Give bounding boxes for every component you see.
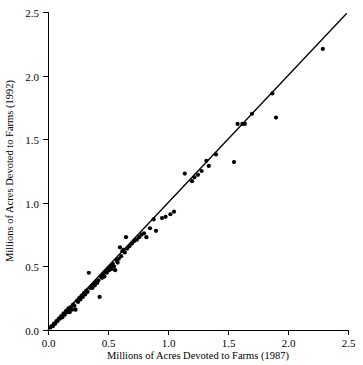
y-tick-label: 0.0	[25, 325, 39, 337]
scatter-point	[250, 112, 254, 116]
scatter-point	[148, 226, 152, 230]
y-axis-ticks	[43, 13, 48, 331]
scatter-point	[116, 260, 120, 264]
scatter-point	[74, 308, 78, 312]
y-tick-label: 0.5	[25, 261, 39, 273]
scatter-point	[200, 169, 204, 173]
scatter-point	[112, 264, 116, 268]
scatter-point	[118, 245, 122, 249]
x-tick-label: 2.0	[282, 337, 296, 349]
scatter-point	[321, 47, 325, 51]
x-axis-title: Millions of Acres Devoted to Farms (1987…	[107, 350, 289, 362]
scatter-point	[196, 173, 200, 177]
scatter-point	[119, 254, 123, 258]
scatter-plot-figure: 0.00.51.01.52.02.5 0.00.51.01.52.02.5 Mi…	[0, 0, 363, 365]
y-tick-label: 2.5	[25, 7, 39, 19]
scatter-point	[87, 271, 91, 275]
scatter-point	[164, 215, 168, 219]
scatter-point	[183, 171, 187, 175]
scatter-point	[70, 308, 74, 312]
scatter-point	[274, 115, 278, 119]
scatter-point	[124, 235, 128, 239]
scatter-points-group	[48, 47, 325, 330]
x-tick-label: 1.0	[162, 337, 176, 349]
scatter-point	[96, 278, 100, 282]
scatter-point	[236, 122, 240, 126]
x-tick-label: 2.5	[342, 337, 356, 349]
scatter-point	[190, 179, 194, 183]
scatter-point	[214, 152, 218, 156]
scatter-point	[86, 290, 90, 294]
scatter-point	[152, 217, 156, 221]
y-tick-label: 1.0	[25, 198, 39, 210]
x-axis-ticks	[49, 330, 349, 335]
scatter-point	[207, 164, 211, 168]
y-tick-label: 1.5	[25, 134, 39, 146]
scatter-point	[172, 210, 176, 214]
scatter-point	[72, 304, 76, 308]
scatter-point	[192, 175, 196, 179]
scatter-point	[232, 160, 236, 164]
x-axis-tick-labels: 0.00.51.01.52.02.5	[42, 337, 356, 349]
scatter-point	[270, 91, 274, 95]
x-tick-label: 1.5	[222, 337, 236, 349]
x-tick-label: 0.0	[42, 337, 56, 349]
scatter-point	[144, 235, 148, 239]
y-axis-title: Millions of Acres Devoted to Farms (1992…	[4, 80, 16, 262]
scatter-point	[113, 268, 117, 272]
scatter-point	[154, 229, 158, 233]
scatter-point	[102, 274, 106, 278]
scatter-point	[142, 231, 146, 235]
y-axis-tick-labels: 0.00.51.01.52.02.5	[25, 7, 39, 337]
scatter-point	[160, 216, 164, 220]
scatter-point	[98, 295, 102, 299]
scatter-point	[243, 122, 247, 126]
x-tick-label: 0.5	[102, 337, 116, 349]
scatter-point	[204, 159, 208, 163]
scatter-point	[123, 250, 127, 254]
scatter-point	[168, 212, 172, 216]
y-tick-label: 2.0	[25, 71, 39, 83]
plot-canvas: 0.00.51.01.52.02.5 0.00.51.01.52.02.5 Mi…	[0, 0, 363, 365]
